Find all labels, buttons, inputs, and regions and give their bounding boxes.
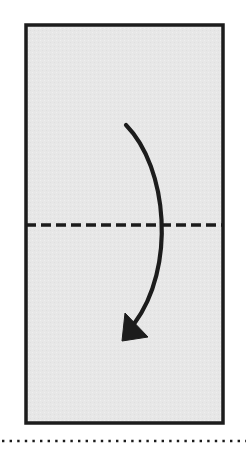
origami-diagram-canvas [0,0,248,450]
origami-diagram-root [0,0,248,450]
